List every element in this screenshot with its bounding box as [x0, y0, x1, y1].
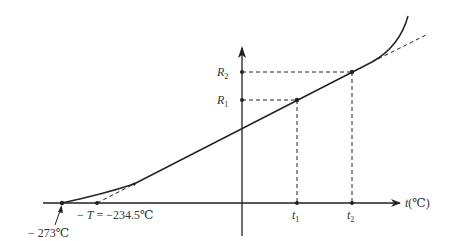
neg-T-label: − T = −234.5℃	[77, 208, 153, 222]
abs-zero-label: − 273℃	[28, 226, 69, 240]
label-t2: t2	[347, 208, 354, 224]
label-t1: t1	[292, 208, 299, 224]
label-R2: R2	[216, 65, 228, 81]
resistance-temperature-diagram: R2 R1 t1 t2 t(℃) − T = −234.5℃ − 273℃	[0, 0, 456, 241]
abs-zero-pointer-arrow-icon	[58, 205, 63, 213]
x-axis-label: t(℃)	[405, 196, 430, 210]
data-points	[60, 70, 354, 205]
label-R1: R1	[216, 93, 228, 109]
resistance-curve	[62, 16, 408, 203]
